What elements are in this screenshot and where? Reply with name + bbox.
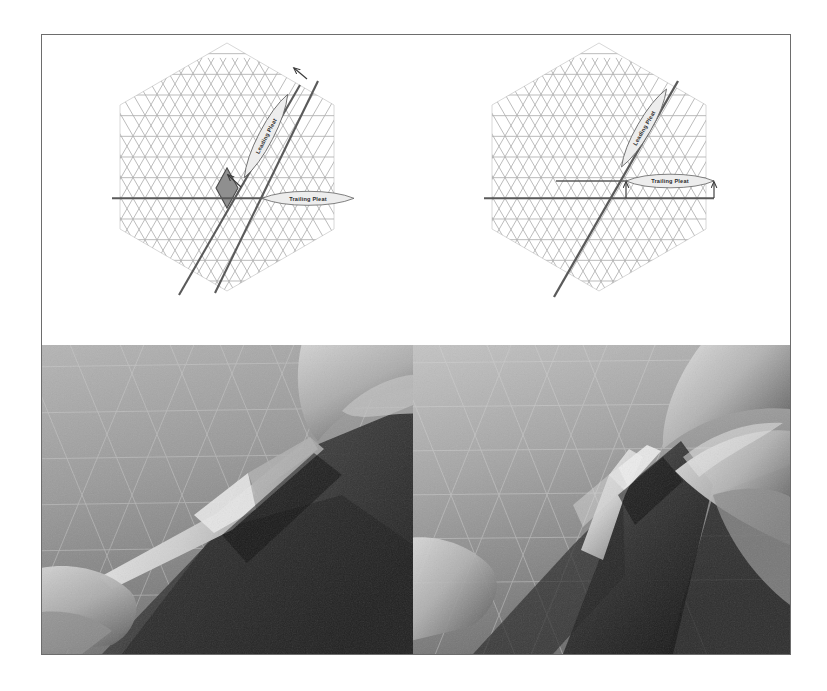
crease-pattern-after: Leading Pleat Trailing Pleat [413,35,790,345]
panel-photo-before [42,345,413,654]
trailing-pleat-label: Trailing Pleat [289,196,327,202]
figure-plate: Leading Pleat Trailing Pleat [0,0,827,691]
crease-pattern-before: Leading Pleat Trailing Pleat [42,35,413,345]
panel-photo-after [413,345,790,654]
plate-frame: Leading Pleat Trailing Pleat [41,34,791,655]
hexagon-sheet [492,43,706,291]
trailing-pleat-label: Trailing Pleat [651,178,689,184]
photograph-pleat-collapse [413,345,790,654]
photograph-pleat-pinch [42,345,413,654]
panel-diagram-after: Leading Pleat Trailing Pleat [413,35,790,345]
panel-diagram-before: Leading Pleat Trailing Pleat [42,35,413,345]
leading-pleat-arrow-upper [294,68,307,79]
